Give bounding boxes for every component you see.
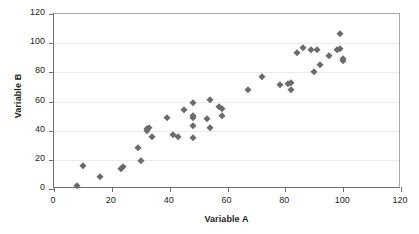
- data-point: [299, 44, 307, 52]
- x-axis-tick: [343, 187, 344, 192]
- data-point: [79, 162, 87, 170]
- y-axis-tick-label: 120: [5, 7, 45, 17]
- x-axis-title: Variable A: [53, 214, 400, 224]
- y-axis-tick-label: 80: [5, 65, 45, 75]
- y-axis-tick: [49, 14, 54, 15]
- x-axis-tick-label: 120: [380, 195, 419, 205]
- plot-area: [53, 13, 400, 188]
- data-point: [316, 61, 324, 69]
- x-axis-tick-label: 20: [91, 195, 131, 205]
- gridline: [54, 43, 399, 44]
- data-point: [313, 47, 321, 55]
- gridline: [54, 160, 399, 161]
- y-axis-tick: [49, 102, 54, 103]
- data-point: [336, 31, 344, 39]
- scatter-chart: Variable B Variable A 020406080100120020…: [0, 0, 419, 234]
- x-axis-tick-label: 80: [264, 195, 304, 205]
- y-axis-tick-label: 40: [5, 124, 45, 134]
- data-point: [293, 50, 301, 58]
- x-axis-tick: [285, 187, 286, 192]
- gridline: [54, 131, 399, 132]
- data-point: [180, 106, 188, 114]
- y-axis-tick: [49, 72, 54, 73]
- y-axis-tick-label: 100: [5, 36, 45, 46]
- x-axis-tick-label: 0: [33, 195, 73, 205]
- y-axis-tick: [49, 160, 54, 161]
- x-axis-tick: [54, 187, 55, 192]
- data-point: [175, 133, 183, 141]
- data-point: [258, 73, 266, 81]
- data-point: [134, 144, 142, 152]
- data-point: [137, 157, 145, 165]
- gridline: [54, 102, 399, 103]
- data-point: [203, 115, 211, 123]
- y-axis-tick: [49, 131, 54, 132]
- data-point: [73, 182, 81, 190]
- data-point: [96, 174, 104, 182]
- x-axis-tick: [401, 187, 402, 192]
- y-axis-tick: [49, 43, 54, 44]
- x-axis-tick: [170, 187, 171, 192]
- data-point: [149, 133, 157, 141]
- data-point: [163, 114, 171, 122]
- data-point: [325, 52, 333, 60]
- x-axis-tick: [112, 187, 113, 192]
- data-point: [310, 69, 318, 77]
- y-axis-tick-label: 0: [5, 182, 45, 192]
- data-point: [287, 86, 295, 94]
- data-point: [189, 99, 197, 107]
- x-axis-tick: [228, 187, 229, 192]
- y-axis-tick-label: 20: [5, 153, 45, 163]
- x-axis-tick-label: 60: [207, 195, 247, 205]
- x-axis-tick-label: 100: [322, 195, 362, 205]
- data-point: [189, 122, 197, 130]
- data-point: [244, 86, 252, 94]
- data-point: [189, 134, 197, 142]
- data-point: [206, 96, 214, 104]
- data-point: [218, 112, 226, 120]
- gridline: [54, 72, 399, 73]
- data-point: [276, 82, 284, 90]
- data-point: [287, 79, 295, 87]
- x-axis-tick-label: 40: [149, 195, 189, 205]
- y-axis-tick-label: 60: [5, 95, 45, 105]
